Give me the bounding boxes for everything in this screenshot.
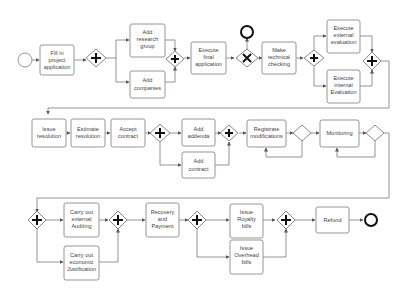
task-carry-out-external-auditing[interactable]: Carry out external Auditing [64,203,99,237]
svg-text:final: final [203,54,213,60]
task-issue-overhead-bills[interactable]: Issue Overhead bills [230,240,263,274]
task-recovery-and-payment[interactable]: Recovery and Payment [146,203,179,237]
gateway-exclusive-check[interactable] [236,49,258,67]
svg-text:bills: bills [242,223,252,229]
svg-text:Add: Add [194,158,204,164]
task-execute-internal-evaluation[interactable]: Execute internal Evaluation [327,70,360,103]
svg-text:addenda: addenda [188,133,211,139]
svg-text:Carry out: Carry out [70,209,93,215]
svg-text:Execute: Execute [333,75,353,81]
task-carry-out-economic-justification[interactable]: Carry out economic Justification [64,246,99,280]
gateway-parallel-join-3[interactable] [220,125,238,141]
svg-text:external: external [334,32,354,38]
svg-text:Add: Add [143,77,153,83]
end-event[interactable] [365,214,377,226]
svg-text:research: research [137,36,159,42]
svg-text:Auditing: Auditing [71,223,91,229]
svg-text:economic: economic [70,259,94,265]
task-refund[interactable]: Refund [316,207,349,233]
svg-text:application: application [195,61,222,67]
svg-text:resolution: resolution [37,133,61,139]
gateway-parallel-split-2[interactable] [304,50,324,66]
svg-text:Refund: Refund [323,217,341,223]
task-add-research-group[interactable]: Add research group [130,24,165,57]
svg-text:Add: Add [143,29,153,35]
svg-text:Overhead: Overhead [234,252,259,258]
svg-text:companies: companies [134,85,161,91]
svg-text:Issue: Issue [240,209,253,215]
gateway-parallel-split-5[interactable] [188,211,206,229]
end-event-rejected[interactable] [241,26,253,38]
svg-text:Accept: Accept [119,126,137,132]
svg-text:Monitoring: Monitoring [326,130,352,136]
svg-text:Issue: Issue [240,245,253,251]
task-add-addenda[interactable]: Add addenda [182,119,215,146]
task-estimate-resolution[interactable]: Estimate resolution [71,119,105,147]
svg-text:Registrate: Registrate [254,126,280,132]
task-add-companies[interactable]: Add companies [130,71,165,98]
svg-text:and: and [158,216,167,222]
svg-text:resolution: resolution [76,133,100,139]
task-issue-royalty-bills[interactable]: Issue Royalty bills [230,204,263,238]
svg-text:technical: technical [268,54,290,60]
svg-text:Estimate: Estimate [77,126,99,132]
gateway-loop-monitoring[interactable] [366,125,384,141]
svg-text:Recovery: Recovery [151,209,175,215]
svg-text:Execute: Execute [198,47,218,53]
svg-text:modifications: modifications [250,133,283,139]
gateway-parallel-join-1[interactable] [166,51,184,67]
svg-text:Make: Make [272,47,286,53]
task-execute-external-evaluation[interactable]: Execute external evaluation [327,20,360,53]
svg-text:bills: bills [242,259,252,265]
task-registrate-modifications[interactable]: Registrate modifications [247,120,286,147]
svg-text:contract: contract [118,133,138,139]
svg-text:Carry out: Carry out [70,252,93,258]
svg-text:Issue: Issue [42,126,55,132]
gateway-parallel-join-5[interactable] [277,211,295,229]
task-issue-resolution[interactable]: Issue resolution [32,119,66,147]
gateway-parallel-join-4[interactable] [109,211,127,229]
gateway-parallel-join-2[interactable] [363,52,381,70]
svg-text:Add: Add [194,126,204,132]
gateway-parallel-split-3[interactable] [150,124,170,142]
task-add-contract[interactable]: Add contract [182,152,215,178]
gateway-parallel-split-1[interactable] [86,49,106,67]
svg-text:external: external [72,216,92,222]
svg-text:Royalty: Royalty [237,216,256,222]
svg-text:Evaluation: Evaluation [330,89,356,95]
svg-text:internal: internal [334,82,352,88]
start-event[interactable] [18,53,32,67]
bpmn-diagram: Fill in project application Add research… [0,0,405,298]
task-make-technical-checking[interactable]: Make technical checking [262,42,296,74]
svg-text:evaluation: evaluation [331,39,357,45]
task-monitoring[interactable]: Monitoring [320,120,359,147]
svg-text:Fill in: Fill in [50,50,63,56]
svg-text:checking: checking [268,61,290,67]
svg-text:project: project [49,57,66,63]
task-accept-contract[interactable]: Accept contract [111,119,145,147]
svg-text:application: application [44,64,71,70]
gateway-parallel-split-4[interactable] [28,211,46,229]
task-execute-final-application[interactable]: Execute final application [191,42,226,74]
svg-text:contract: contract [189,166,209,172]
task-fill-in-project-application[interactable]: Fill in project application [40,45,74,75]
svg-text:Execute: Execute [333,25,353,31]
svg-text:group: group [140,43,154,49]
svg-text:Payment: Payment [151,223,174,229]
svg-text:Justification: Justification [67,266,96,272]
gateway-loop-modifications[interactable] [293,125,311,141]
